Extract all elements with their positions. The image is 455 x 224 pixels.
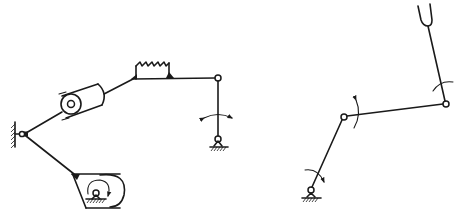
coupler-rocker-joint <box>443 101 449 107</box>
cam-ground-pivot-icon <box>86 190 106 203</box>
roller-cylinder-icon <box>59 84 104 120</box>
ground-wall-icon <box>11 122 28 148</box>
crank-coupler-joint <box>341 114 347 120</box>
spring-element-icon <box>131 62 174 79</box>
rocker-joint <box>215 75 221 81</box>
mechanism-diagram <box>0 0 455 224</box>
horizontal-link <box>133 78 215 79</box>
rocker-ground-pivot-icon <box>210 136 228 151</box>
crank-ground-pivot-icon <box>302 187 321 202</box>
upper-link <box>26 112 62 133</box>
right-mechanism <box>302 4 453 202</box>
left-mechanism <box>11 62 232 208</box>
fork-rocker-link <box>428 26 445 101</box>
crank-link <box>312 120 342 187</box>
fork-end-icon <box>418 4 432 26</box>
lower-link <box>26 136 74 174</box>
spring-link <box>104 79 133 94</box>
coupler-link <box>347 104 443 116</box>
